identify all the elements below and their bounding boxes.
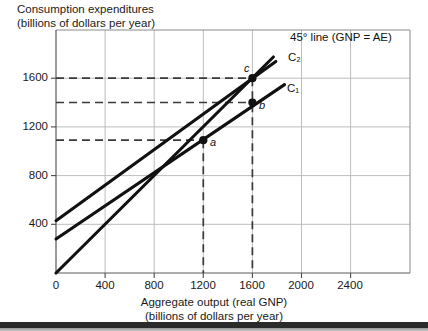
- curve-c2: [56, 62, 276, 221]
- curves: [56, 57, 285, 273]
- x-axis-title-line2: (billions of dollars per year): [0, 309, 428, 323]
- y-tick-400: 400: [8, 217, 48, 229]
- x-tick-2400: 2400: [327, 279, 373, 291]
- gridlines: [56, 30, 410, 273]
- page-bottom-rule: [0, 322, 428, 331]
- x-tick-0: 0: [33, 279, 79, 291]
- label-point-c: c: [244, 62, 250, 74]
- label-point-b: b: [259, 99, 265, 111]
- x-axis-title: Aggregate output (real GNP) (billions of…: [0, 295, 428, 323]
- point-a-marker: [199, 136, 207, 144]
- x-tick-2000: 2000: [278, 279, 324, 291]
- point-b-marker: [248, 98, 256, 106]
- axis-ticks: [51, 78, 351, 278]
- x-tick-1200: 1200: [180, 279, 226, 291]
- y-tick-1200: 1200: [8, 120, 48, 132]
- chart-figure: Consumption expenditures (billions of do…: [0, 0, 428, 331]
- label-c2: C₂: [288, 51, 301, 63]
- x-axis-title-line1: Aggregate output (real GNP): [0, 295, 428, 309]
- x-tick-800: 800: [131, 279, 177, 291]
- point-c-marker: [248, 74, 256, 82]
- y-tick-800: 800: [8, 169, 48, 181]
- x-tick-400: 400: [82, 279, 128, 291]
- plot-frame: [56, 30, 410, 273]
- x-tick-1600: 1600: [229, 279, 275, 291]
- label-45-degree-line: 45° line (GNP = AE): [290, 31, 392, 43]
- curve-c1: [56, 85, 285, 239]
- y-tick-1600: 1600: [8, 71, 48, 83]
- label-c1: C₁: [287, 82, 299, 94]
- label-point-a: a: [210, 136, 216, 148]
